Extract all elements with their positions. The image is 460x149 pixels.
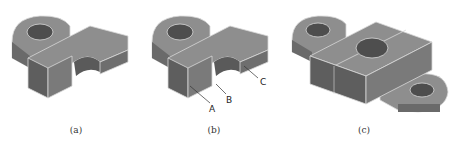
figure-b: A B C (b): [140, 0, 290, 149]
figure-c: (c): [280, 0, 460, 149]
caption-a: (a): [56, 125, 96, 135]
label-b: B: [226, 95, 232, 105]
caption-c: (c): [344, 125, 384, 135]
label-c: C: [260, 77, 266, 87]
caption-b: (b): [194, 125, 234, 135]
leader-line-b: [216, 84, 226, 94]
label-a: A: [209, 104, 216, 114]
figure-a: (a): [0, 0, 150, 149]
